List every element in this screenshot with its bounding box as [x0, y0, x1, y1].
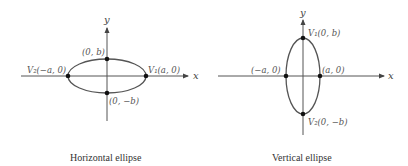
- vertex-v2-label: V₂(0, −b): [308, 117, 348, 127]
- ellipse-diagrams: x y V₂(−a, 0) V₁(a, 0) (0, b) (0, −b) Ho…: [0, 0, 408, 166]
- x-axis-label: x: [193, 70, 199, 81]
- caption-vertical: Vertical ellipse: [272, 152, 332, 163]
- vertex-v2-point: [66, 74, 71, 79]
- vertex-v1-label: V₁(a, 0): [148, 65, 180, 75]
- co-vertex-left-label: (−a, 0): [251, 65, 281, 75]
- vertex-v1-label: V₁(0, b): [308, 28, 340, 38]
- x-axis-label: x: [388, 70, 394, 81]
- y-axis-label: y: [103, 14, 110, 25]
- co-vertex-left-point: [284, 74, 289, 79]
- co-vertex-right-label: (a, 0): [322, 65, 345, 75]
- vertex-v1-point: [301, 36, 306, 41]
- co-vertex-bottom-point: [105, 91, 110, 96]
- caption-horizontal: Horizontal ellipse: [70, 152, 142, 163]
- vertex-v2-point: [301, 112, 306, 117]
- co-vertex-bottom-label: (0, −b): [109, 96, 139, 106]
- horizontal-ellipse-diagram: x y V₂(−a, 0) V₁(a, 0) (0, b) (0, −b) Ho…: [21, 14, 199, 163]
- co-vertex-top-label: (0, b): [82, 47, 105, 57]
- y-axis-label: y: [299, 7, 306, 18]
- co-vertex-top-point: [105, 57, 110, 62]
- vertex-v2-label: V₂(−a, 0): [27, 65, 66, 75]
- vertical-ellipse-diagram: x y V₁(0, b) V₂(0, −b) (−a, 0) (a, 0) Ve…: [218, 7, 394, 163]
